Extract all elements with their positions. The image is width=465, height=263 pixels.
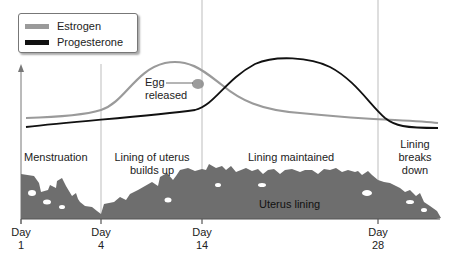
- egg-released-label: Egg released: [145, 76, 187, 102]
- phase-lining-breaks-down: Lining breaks down: [392, 138, 438, 177]
- day-label-14: Day 14: [187, 226, 217, 252]
- uterus-lining-label: Uterus lining: [259, 198, 320, 211]
- day-label-28: Day 28: [363, 226, 393, 252]
- progesterone-swatch: [25, 40, 49, 45]
- legend-label-progesterone: Progesterone: [57, 36, 123, 48]
- legend: Estrogen Progesterone: [18, 13, 138, 53]
- legend-label-estrogen: Estrogen: [57, 20, 101, 32]
- y-axis-arrow-icon: [18, 64, 24, 72]
- phase-lining-maintained: Lining maintained: [248, 151, 334, 164]
- phase-lining-builds-up: Lining of uterus builds up: [114, 151, 190, 177]
- legend-item-estrogen: Estrogen: [25, 20, 101, 32]
- estrogen-swatch: [25, 24, 49, 29]
- estrogen-curve: [26, 62, 438, 123]
- phase-menstruation: Menstruation: [24, 151, 88, 164]
- day-label-4: Day 4: [86, 226, 116, 252]
- egg-icon: [192, 79, 204, 89]
- legend-item-progesterone: Progesterone: [25, 36, 123, 48]
- day-label-1: Day 1: [6, 226, 36, 252]
